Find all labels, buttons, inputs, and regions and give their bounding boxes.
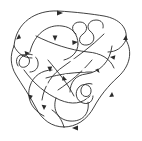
gap-6 <box>98 50 102 54</box>
gap-5 <box>44 82 48 86</box>
knot-diagram-figure <box>0 0 142 141</box>
gap-7 <box>32 54 36 58</box>
gap-3 <box>64 74 68 78</box>
knot-diagram-canvas <box>0 0 142 141</box>
gap-1 <box>53 60 57 64</box>
gap-2 <box>70 58 74 62</box>
gap-4 <box>82 68 86 72</box>
gap-8 <box>86 98 90 102</box>
diagram-background <box>0 0 142 141</box>
